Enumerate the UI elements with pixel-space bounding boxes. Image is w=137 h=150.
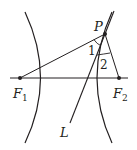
label-F1: F1 [12, 86, 28, 103]
label-P: P [93, 19, 103, 34]
label-L: L [59, 125, 69, 140]
point-F2 [117, 76, 121, 80]
point-P [103, 32, 107, 36]
hyperbola-diagram: P 1 2 F1 F2 L [0, 0, 137, 150]
label-angle-2: 2 [100, 58, 108, 72]
label-angle-1: 1 [88, 44, 96, 58]
point-F1 [18, 76, 22, 80]
label-F2-sub: 2 [122, 93, 128, 103]
label-F2: F2 [112, 86, 128, 103]
label-F1-sub: 1 [22, 93, 28, 103]
